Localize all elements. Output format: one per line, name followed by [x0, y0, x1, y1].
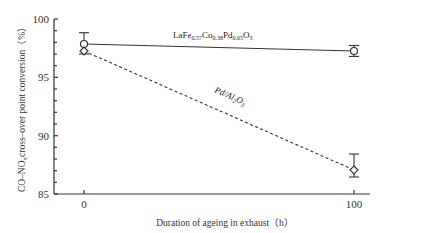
- x-axis-title: Duration of ageing in exhaust（h）: [156, 217, 294, 228]
- y-axis-title: CO–NOxcross–over point conversion（%）: [16, 22, 29, 192]
- y-tick-85: 85: [38, 188, 50, 200]
- diamond-marker: [350, 166, 358, 174]
- series-pd-alumina: [80, 47, 359, 177]
- y-tick-95: 95: [38, 71, 50, 83]
- x-tick-100: 100: [346, 198, 363, 210]
- circle-marker: [351, 48, 358, 55]
- y-tick-100: 100: [33, 13, 50, 25]
- y-tick-90: 90: [38, 130, 50, 142]
- x-tick-0: 0: [81, 198, 87, 210]
- chart: 100 95 90 85 0 100 Duration of ageing in…: [0, 0, 435, 233]
- x-axis: [54, 190, 370, 194]
- y-axis: [54, 19, 58, 194]
- label-pd-alumina: Pd/Al2O3: [212, 84, 248, 108]
- label-perovskite: LaFe0.57Co0.38Pd0.05O3: [173, 30, 253, 41]
